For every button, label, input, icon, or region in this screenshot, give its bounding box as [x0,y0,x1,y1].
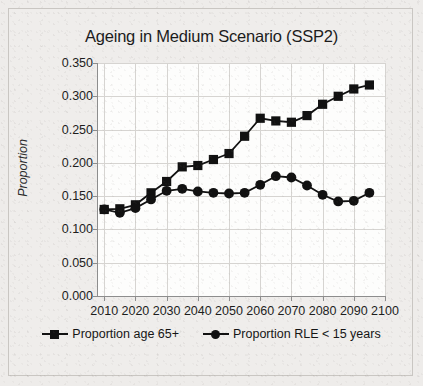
y-tick-label: 0.350 [33,56,93,70]
square-marker-icon [42,328,68,340]
y-tick-label: 0.200 [33,156,93,170]
legend-label: Proportion RLE < 15 years [233,327,381,341]
chart-figure: Ageing in Medium Scenario (SSP2) Proport… [0,0,423,386]
circle-marker-icon [302,181,312,191]
series-line [104,85,369,209]
circle-marker-icon [255,180,265,190]
x-tick-mark [323,296,324,301]
circle-marker-icon [333,197,343,207]
circle-marker-icon [193,187,203,197]
x-tick-mark [385,296,386,301]
gridline-vertical [385,63,386,296]
x-tick-label: 2100 [358,304,412,318]
circle-marker-icon [99,205,109,215]
x-tick-mark [135,296,136,301]
square-marker-icon [256,114,265,123]
plot-area: 0.0000.0500.1000.1500.2000.2500.3000.350… [97,63,385,297]
x-tick-mark [260,296,261,301]
y-tick-label: 0.100 [33,222,93,236]
circle-marker-icon [203,328,229,340]
x-tick-mark [229,296,230,301]
circle-marker-icon [177,184,187,194]
series-line [104,176,369,213]
square-marker-icon [178,162,187,171]
square-marker-icon [365,80,374,89]
circle-marker-icon [115,208,125,218]
square-marker-icon [334,92,343,101]
x-tick-mark [354,296,355,301]
circle-marker-icon [318,190,328,200]
chart-frame: Ageing in Medium Scenario (SSP2) Proport… [8,8,413,376]
y-tick-label: 0.000 [33,289,93,303]
circle-marker-icon [349,196,359,206]
y-tick-label: 0.050 [33,256,93,270]
circle-marker-icon [146,195,156,205]
y-tick-mark [93,296,98,297]
chart-title: Ageing in Medium Scenario (SSP2) [9,27,414,46]
square-marker-icon [302,111,311,120]
legend-entry[interactable]: Proportion RLE < 15 years [203,327,381,341]
circle-marker-icon [365,188,375,198]
circle-marker-icon [209,188,219,198]
y-tick-label: 0.150 [33,189,93,203]
y-tick-label: 0.300 [33,89,93,103]
legend-entry[interactable]: Proportion age 65+ [42,327,179,341]
circle-marker-icon [287,173,297,183]
x-tick-mark [104,296,105,301]
chart-legend: Proportion age 65+Proportion RLE < 15 ye… [9,327,414,341]
square-marker-icon [271,116,280,125]
circle-marker-icon [131,203,141,213]
circle-marker-icon [224,189,234,199]
square-marker-icon [162,177,171,186]
y-tick-label: 0.250 [33,123,93,137]
x-tick-mark [198,296,199,301]
square-marker-icon [209,155,218,164]
legend-marker-glyph [50,330,59,339]
legend-label: Proportion age 65+ [72,327,179,341]
square-marker-icon [287,118,296,127]
circle-marker-icon [240,188,250,198]
circle-marker-icon [162,186,172,196]
square-marker-icon [224,149,233,158]
circle-marker-icon [271,171,281,181]
x-tick-mark [291,296,292,301]
series-layer [98,63,385,296]
y-axis-label: Proportion [16,118,30,218]
square-marker-icon [193,161,202,170]
square-marker-icon [349,84,358,93]
square-marker-icon [240,132,249,141]
x-tick-mark [167,296,168,301]
legend-marker-glyph [211,330,220,339]
square-marker-icon [318,100,327,109]
